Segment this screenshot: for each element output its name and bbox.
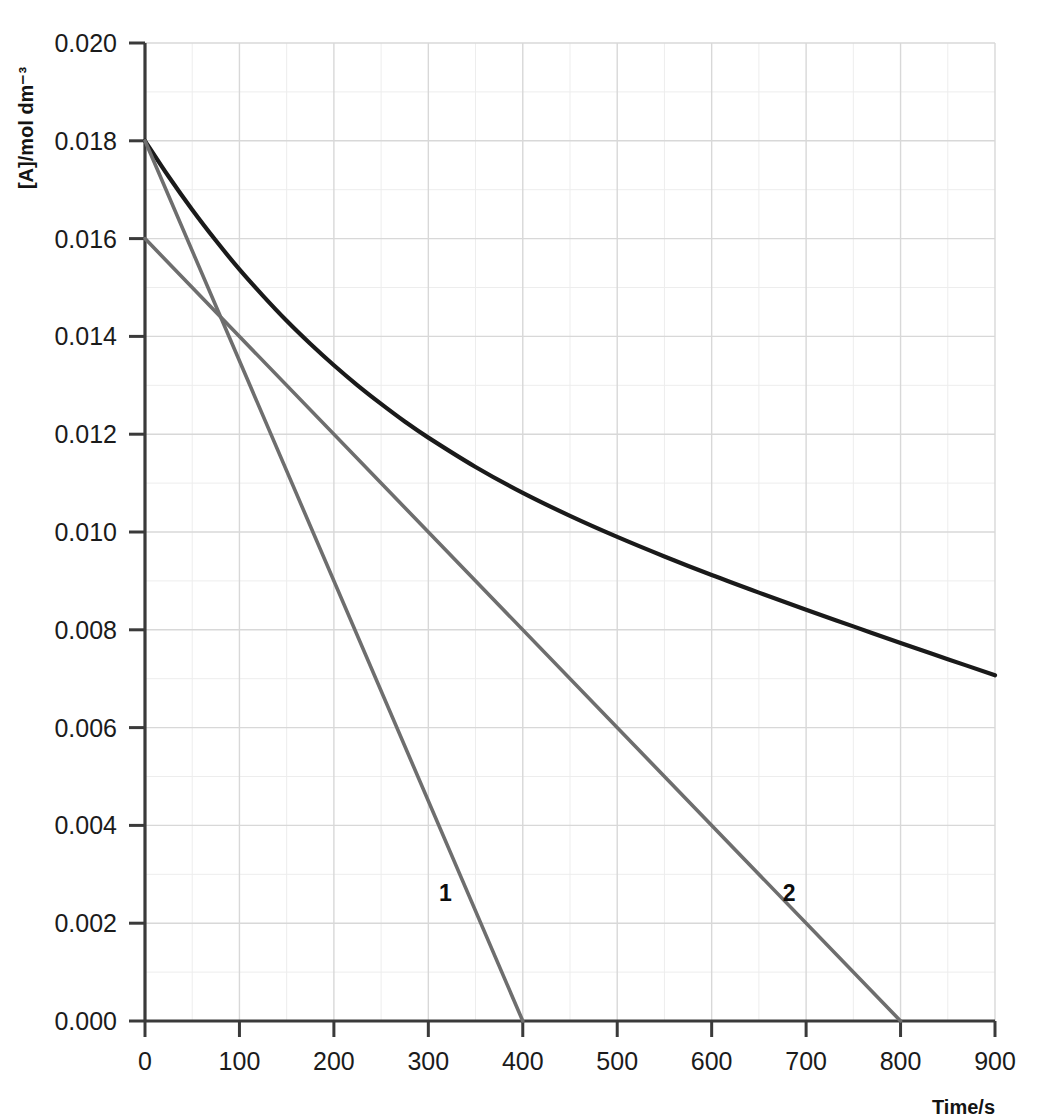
y-tick-label: 0.018 bbox=[54, 127, 117, 155]
x-tick-label: 300 bbox=[407, 1047, 449, 1075]
x-tick-label: 200 bbox=[313, 1047, 355, 1075]
y-axis-title: [A]/mol dm⁻³ bbox=[15, 67, 37, 189]
x-tick-label: 100 bbox=[219, 1047, 261, 1075]
x-tick-label: 700 bbox=[785, 1047, 827, 1075]
tangent-label-2: 2 bbox=[783, 880, 796, 906]
y-tick-label: 0.006 bbox=[54, 714, 117, 742]
tangent-label-1: 1 bbox=[439, 880, 452, 906]
y-tick-label: 0.000 bbox=[54, 1007, 117, 1035]
x-tick-label: 900 bbox=[974, 1047, 1016, 1075]
x-axis-title: Time/s bbox=[932, 1096, 995, 1118]
y-tick-label: 0.012 bbox=[54, 420, 117, 448]
y-tick-label: 0.004 bbox=[54, 811, 117, 839]
y-tick-label: 0.010 bbox=[54, 518, 117, 546]
x-tick-label: 400 bbox=[502, 1047, 544, 1075]
y-tick-label: 0.020 bbox=[54, 29, 117, 57]
y-tick-label: 0.002 bbox=[54, 909, 117, 937]
y-tick-label: 0.014 bbox=[54, 322, 117, 350]
x-tick-label: 500 bbox=[596, 1047, 638, 1075]
y-tick-label: 0.016 bbox=[54, 225, 117, 253]
x-tick-label: 0 bbox=[138, 1047, 152, 1075]
x-tick-label: 800 bbox=[880, 1047, 922, 1075]
y-tick-label: 0.008 bbox=[54, 616, 117, 644]
x-tick-label: 600 bbox=[691, 1047, 733, 1075]
concentration-vs-time-chart: 0.0000.0020.0040.0060.0080.0100.0120.014… bbox=[0, 0, 1040, 1118]
